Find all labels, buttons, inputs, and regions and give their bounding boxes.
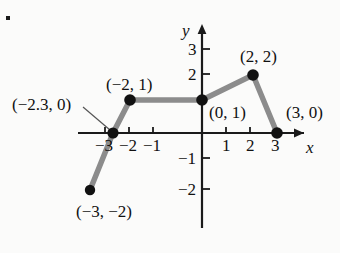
point-label-2-2: (2, 2) [240, 48, 277, 65]
x-axis-label: x [306, 139, 314, 156]
x-tick-label-neg3: −3 [95, 137, 113, 154]
y-axis [198, 24, 207, 228]
y-axis-label: y [182, 22, 190, 39]
y-tick-label-3: 3 [188, 41, 197, 58]
point-label-neg2-3-0: (−2.3, 0) [12, 96, 71, 113]
x-tick-label-1: 1 [222, 137, 231, 154]
point-neg3-neg2 [85, 185, 95, 195]
graph-figure: y x −3 −2 −1 1 2 3 3 2 −1 −2 (−2.3, 0) (… [0, 0, 340, 253]
x-tick-label-neg2: −2 [119, 137, 137, 154]
point-2-2 [247, 69, 259, 81]
point-label-neg3-neg2: (−3, −2) [76, 203, 132, 220]
leader-line [83, 107, 110, 130]
x-tick-label-2: 2 [246, 137, 255, 154]
point-neg2-1 [124, 94, 136, 106]
point-label-3-0: (3, 0) [286, 104, 323, 121]
x-tick-label-neg1: −1 [143, 137, 161, 154]
y-tick-label-neg2: −2 [178, 181, 196, 198]
point-label-neg2-1: (−2, 1) [106, 76, 152, 93]
point-label-0-1: (0, 1) [209, 104, 246, 121]
x-tick-label-3: 3 [271, 137, 280, 154]
point-0-1 [196, 94, 208, 106]
y-tick-label-neg1: −1 [178, 150, 196, 167]
y-tick-label-2: 2 [188, 66, 197, 83]
coordinate-plane [0, 0, 340, 253]
